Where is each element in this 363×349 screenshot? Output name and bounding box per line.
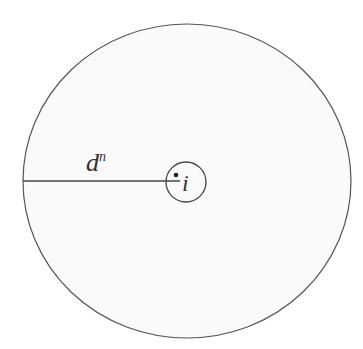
center-label: i [182,170,189,196]
center-point [174,173,179,178]
diagram: dn i [0,0,363,349]
